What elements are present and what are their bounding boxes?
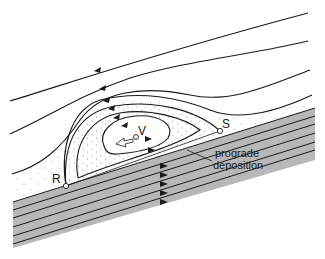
label-v: V: [138, 124, 146, 138]
annotation-prograde: prograde: [215, 147, 259, 159]
annotation-deposition: deposition: [213, 159, 263, 171]
label-r: R: [52, 172, 61, 186]
point-r: [63, 183, 68, 188]
flow-separation-diagram: R S V prograde deposition: [0, 0, 325, 259]
label-s: S: [222, 117, 230, 131]
